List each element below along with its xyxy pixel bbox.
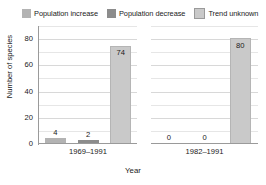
legend-item-label: Population increase: [34, 9, 98, 18]
x-axis-tick-label: 1969–1991: [39, 147, 137, 156]
chart-panel: 00801982–1991: [151, 26, 258, 144]
y-axis-title: Number of species: [5, 17, 14, 117]
x-axis-tick-label: 1982–1991: [151, 147, 258, 156]
bar-value-label: 74: [116, 48, 124, 57]
bar-value-label: 80: [236, 41, 244, 50]
bar-value-label: 2: [86, 130, 90, 139]
bar-slot: 2: [72, 26, 105, 143]
bar-group: 0080: [151, 26, 258, 143]
x-axis-line: [151, 143, 258, 144]
bar-value-label: 4: [53, 128, 57, 137]
legend-item: Population decrease: [107, 9, 185, 18]
bar-slot: 74: [104, 26, 137, 143]
legend-swatch-icon: [22, 9, 31, 18]
legend-swatch-icon: [107, 9, 116, 18]
bar-slot: 80: [222, 26, 258, 143]
bar-slot: 0: [187, 26, 223, 143]
chart-panel: 42741969–1991: [39, 26, 137, 144]
bar-chart: Population increasePopulation decreaseTr…: [0, 0, 266, 185]
legend-item: Trend unknown: [194, 8, 258, 19]
chart-legend: Population increasePopulation decreaseTr…: [22, 7, 258, 20]
legend-item-label: Population decrease: [119, 9, 185, 18]
bar-value-label: 0: [167, 133, 171, 142]
bar-value-label: 0: [202, 133, 206, 142]
bar: 74: [110, 46, 131, 143]
bar: 80: [230, 38, 251, 143]
plot-panels: 42741969–199100801982–1991: [0, 26, 266, 156]
bar-slot: 0: [151, 26, 187, 143]
legend-item-label: Trend unknown: [208, 9, 258, 18]
bar-slot: 4: [39, 26, 72, 143]
bar-group: 4274: [39, 26, 137, 143]
x-axis-title: Year: [0, 166, 266, 175]
legend-item: Population increase: [22, 9, 98, 18]
x-axis-line: [39, 143, 137, 144]
legend-swatch-icon: [194, 8, 205, 19]
